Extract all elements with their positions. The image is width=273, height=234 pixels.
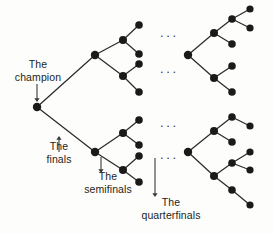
tree-node-quarterfinalist	[135, 21, 143, 29]
tree-node-semifinalist	[119, 72, 127, 80]
tree-node-omitted-bracket-root	[184, 51, 192, 59]
tree-node-semifinalist	[119, 36, 127, 44]
tree-node-quarterfinalist	[135, 88, 143, 96]
label-the-semifinals: The semifinals	[72, 170, 144, 195]
tree-node-omitted-node	[210, 127, 218, 135]
label-the-champion-line1: The	[8, 58, 68, 71]
tree-node-quarterfinalist	[135, 50, 143, 58]
tree-node-omitted-node	[210, 29, 218, 37]
tournament-tree-figure: The champion The finals The semifinals T…	[0, 0, 273, 234]
tree-edge	[188, 131, 214, 152]
tree-node-omitted-node	[228, 15, 236, 23]
tree-node-quarterfinalist	[135, 60, 143, 68]
tree-node-omitted-node	[246, 122, 253, 129]
label-the-finals-line2: finals	[31, 153, 87, 166]
label-the-quarterfinals-line1: The	[128, 196, 214, 209]
tree-node-omitted-node	[246, 166, 253, 173]
ellipsis-1: ...	[160, 30, 179, 36]
tree-edge	[188, 152, 214, 176]
tree-node-omitted-node	[210, 172, 218, 180]
tree-edge	[188, 33, 214, 55]
tree-node-omitted-node	[228, 113, 236, 121]
label-the-quarterfinals: The quarterfinals	[128, 196, 214, 221]
tree-node-semifinalist	[119, 129, 127, 137]
tree-node-omitted-node	[246, 24, 253, 31]
tree-node-omitted-node	[246, 201, 253, 208]
tree-edge	[95, 40, 123, 55]
ellipsis-4: ...	[160, 152, 179, 158]
tree-node-omitted-node	[228, 159, 236, 167]
tree-edge	[95, 133, 123, 152]
tree-node-omitted-node	[246, 148, 253, 155]
tree-edge	[95, 152, 123, 170]
ellipsis-2: ...	[160, 66, 179, 72]
label-the-semifinals-line2: semifinals	[72, 183, 144, 196]
label-the-finals-line1: The	[31, 140, 87, 153]
tree-edge	[188, 55, 214, 78]
tree-node-finalist	[91, 51, 99, 59]
tree-node-finalist	[91, 148, 99, 156]
label-the-champion-line2: champion	[8, 71, 68, 84]
tree-edge	[95, 55, 123, 76]
tree-node-omitted-node	[228, 138, 236, 146]
tree-node-omitted-node	[210, 74, 218, 82]
tree-node-omitted-node	[228, 40, 236, 48]
tree-node-quarterfinalist	[135, 116, 143, 124]
label-the-finals: The finals	[31, 140, 87, 165]
tree-node-quarterfinalist	[135, 152, 143, 160]
label-the-champion: The champion	[8, 58, 68, 83]
tree-node-omitted-bracket-root	[184, 148, 192, 156]
tree-node-quarterfinalist	[135, 141, 143, 149]
label-the-quarterfinals-line2: quarterfinals	[128, 209, 214, 222]
ellipsis-3: ...	[160, 120, 179, 126]
tree-node-omitted-node	[228, 88, 236, 96]
tree-node-champion	[33, 103, 41, 111]
tree-node-omitted-node	[246, 5, 253, 12]
tree-node-omitted-node	[228, 62, 236, 70]
tree-node-omitted-node	[228, 186, 236, 194]
label-the-semifinals-line1: The	[72, 170, 144, 183]
